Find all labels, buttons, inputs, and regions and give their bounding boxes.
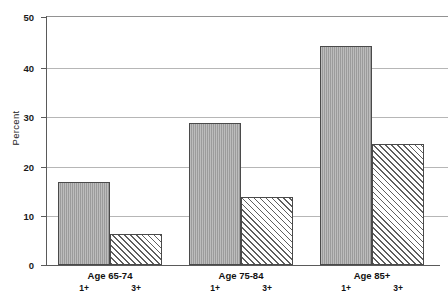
- y-tick-label-30: 30: [23, 112, 34, 123]
- bar-age-75-84-3plus: [241, 197, 293, 265]
- bar-age-85plus-1plus: [320, 46, 372, 265]
- gridline-30: [46, 117, 448, 118]
- x-sub-label-85plus-3plus: 3+: [393, 283, 403, 293]
- x-group-label-age-85plus: Age 85+: [354, 270, 391, 281]
- y-tick-label-50: 50: [23, 12, 34, 23]
- y-axis-line: [46, 16, 47, 266]
- y-axis-tick-labels: 0 10 20 30 40 50: [0, 0, 40, 299]
- bar-age-85plus-3plus: [372, 144, 424, 265]
- bar-age-75-84-1plus: [189, 123, 241, 265]
- x-sub-label-85plus-1plus: 1+: [341, 283, 351, 293]
- bar-age-65-74-3plus: [110, 234, 162, 265]
- x-sub-label-75-84-3plus: 3+: [262, 283, 272, 293]
- x-group-label-age-65-74: Age 65-74: [88, 270, 133, 281]
- x-axis-line: [46, 265, 440, 266]
- y-tick-label-40: 40: [23, 63, 34, 74]
- gridline-50: [46, 16, 448, 17]
- x-sub-label-65-74-1plus: 1+: [79, 283, 89, 293]
- bar-chart: 0 10 20 30 40 50 Percent Age 65-74 Age 7…: [0, 0, 448, 299]
- gridline-40: [46, 68, 448, 69]
- y-tick-label-0: 0: [29, 260, 34, 271]
- y-tick-label-20: 20: [23, 162, 34, 173]
- x-sub-label-75-84-1plus: 1+: [210, 283, 220, 293]
- y-axis-title: Percent: [10, 111, 21, 146]
- bar-age-65-74-1plus: [58, 182, 110, 265]
- x-sub-label-65-74-3plus: 3+: [131, 283, 141, 293]
- y-tick-label-10: 10: [23, 211, 34, 222]
- x-group-label-age-75-84: Age 75-84: [219, 270, 264, 281]
